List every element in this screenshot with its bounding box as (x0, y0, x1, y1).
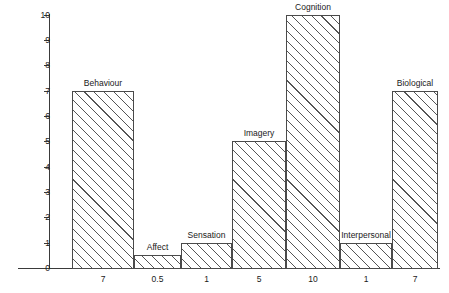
y-axis-tick: 4 (0, 167, 50, 168)
y-axis-tick: 7 (0, 91, 50, 92)
bar-biological (392, 91, 438, 269)
bar-label-biological: Biological (397, 79, 433, 88)
y-axis-tick-label: 5 (26, 137, 50, 146)
bar-cognition (286, 15, 340, 270)
y-axis-tick: 0 (0, 268, 50, 269)
bar-imagery (232, 141, 286, 269)
x-axis-tick-label: 7 (413, 275, 418, 284)
bar-interpersonal (340, 243, 392, 269)
y-axis-tick-label: 1 (26, 239, 50, 248)
bar-chart: 109876543210 BehaviourAffectSensationIma… (0, 0, 449, 293)
y-axis-tick: 6 (0, 116, 50, 117)
x-axis-tick-label: 5 (257, 275, 262, 284)
bar-label-imagery: Imagery (244, 129, 275, 138)
y-axis-tick-label: 6 (26, 112, 50, 121)
y-axis-tick-label: 3 (26, 188, 50, 197)
bar-label-interpersonal: Interpersonal (341, 231, 391, 240)
x-axis-tick-label: 1 (364, 275, 369, 284)
y-axis-tick: 5 (0, 141, 50, 142)
bar-label-behaviour: Behaviour (84, 79, 122, 88)
y-axis-tick-label: 7 (26, 87, 50, 96)
y-axis-tick-label: 4 (26, 163, 50, 172)
bar-label-cognition: Cognition (295, 3, 331, 12)
y-axis-tick-label: 0 (26, 264, 50, 273)
x-axis-tick-label: 0.5 (152, 275, 164, 284)
bar-label-sensation: Sensation (188, 231, 226, 240)
y-axis-tick-label: 8 (26, 61, 50, 70)
y-axis-tick-label: 9 (26, 36, 50, 45)
y-axis-tick-label: 2 (26, 213, 50, 222)
y-axis-tick: 3 (0, 192, 50, 193)
x-axis-tick-label: 7 (101, 275, 106, 284)
bar-label-affect: Affect (147, 243, 169, 252)
y-axis-tick-label: 10 (26, 11, 50, 20)
y-axis-tick: 1 (0, 243, 50, 244)
x-axis-tick-label: 10 (308, 275, 317, 284)
y-axis-tick: 10 (0, 15, 50, 16)
x-axis-tick-label: 1 (204, 275, 209, 284)
y-axis-tick: 8 (0, 65, 50, 66)
bar-behaviour (72, 91, 134, 269)
y-axis-tick: 2 (0, 217, 50, 218)
bar-sensation (181, 243, 232, 269)
bar-affect (134, 255, 181, 269)
y-axis-tick: 9 (0, 40, 50, 41)
